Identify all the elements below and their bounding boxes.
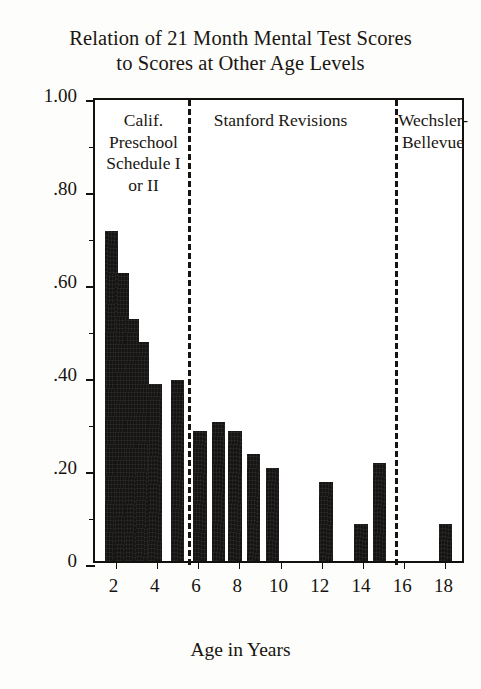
x-tick-label: 12 bbox=[300, 575, 340, 597]
y-tick-minor bbox=[89, 333, 95, 334]
x-tick bbox=[281, 561, 282, 569]
x-tick-label: 8 bbox=[217, 575, 257, 597]
bar bbox=[228, 431, 242, 561]
section-label-line: Stanford Revisions bbox=[211, 110, 351, 132]
section-label-calif-preschool: Calif.PreschoolSchedule Ior II bbox=[73, 110, 213, 196]
y-tick-major bbox=[86, 100, 95, 102]
bar bbox=[319, 482, 333, 561]
section-label-line: Calif. bbox=[73, 110, 213, 132]
bar bbox=[193, 431, 207, 561]
bar bbox=[148, 384, 162, 561]
y-tick-label: .80 bbox=[15, 178, 77, 200]
x-tick-label: 4 bbox=[135, 575, 175, 597]
x-tick-label: 16 bbox=[382, 575, 422, 597]
section-label-wechsler-bellevue: Wechsler-Bellevue bbox=[363, 110, 481, 153]
y-tick-label: 0 bbox=[15, 550, 77, 572]
x-tick-label: 6 bbox=[176, 575, 216, 597]
x-tick bbox=[404, 561, 405, 569]
y-tick-minor bbox=[89, 147, 95, 148]
x-tick bbox=[239, 561, 240, 569]
y-tick-major bbox=[86, 379, 95, 381]
x-tick bbox=[322, 561, 323, 569]
bar bbox=[247, 454, 261, 561]
chart-title-line-1: Relation of 21 Month Mental Test Scores bbox=[0, 26, 481, 51]
y-tick-label: .40 bbox=[15, 364, 77, 386]
bar bbox=[354, 524, 368, 561]
chart-title-line-2: to Scores at Other Age Levels bbox=[0, 51, 481, 76]
y-tick-major bbox=[86, 472, 95, 474]
y-tick-major bbox=[86, 286, 95, 288]
section-divider bbox=[188, 100, 191, 565]
y-tick-major bbox=[86, 565, 95, 567]
x-tick bbox=[198, 561, 199, 569]
y-tick-minor bbox=[89, 519, 95, 520]
x-tick bbox=[445, 561, 446, 569]
section-divider bbox=[395, 100, 398, 565]
section-label-line: Wechsler- bbox=[363, 110, 481, 132]
y-tick-label: .60 bbox=[15, 271, 77, 293]
chart-title: Relation of 21 Month Mental Test Scores … bbox=[0, 26, 481, 76]
section-label-line: Preschool bbox=[73, 132, 213, 154]
x-tick bbox=[363, 561, 364, 569]
bar bbox=[373, 463, 387, 561]
bar bbox=[212, 422, 226, 562]
x-tick bbox=[116, 561, 117, 569]
bar bbox=[171, 380, 185, 561]
x-tick-label: 18 bbox=[423, 575, 463, 597]
x-axis-label: Age in Years bbox=[0, 639, 481, 661]
x-tick-label: 10 bbox=[259, 575, 299, 597]
x-tick-label: 14 bbox=[341, 575, 381, 597]
x-tick bbox=[157, 561, 158, 569]
chart-figure: Relation of 21 Month Mental Test Scores … bbox=[0, 0, 481, 689]
bar bbox=[266, 468, 280, 561]
y-tick-major bbox=[86, 193, 95, 195]
x-tick-label: 2 bbox=[94, 575, 134, 597]
bar bbox=[439, 524, 453, 561]
section-label-line: Bellevue bbox=[363, 132, 481, 154]
y-tick-label: .20 bbox=[15, 457, 77, 479]
plot-area: Calif.PreschoolSchedule Ior IIStanford R… bbox=[93, 98, 464, 563]
section-label-line: Schedule I bbox=[73, 153, 213, 175]
y-tick-minor bbox=[89, 426, 95, 427]
y-tick-label: 1.00 bbox=[15, 85, 77, 107]
y-tick-minor bbox=[89, 240, 95, 241]
section-label-stanford-revisions: Stanford Revisions bbox=[211, 110, 351, 132]
